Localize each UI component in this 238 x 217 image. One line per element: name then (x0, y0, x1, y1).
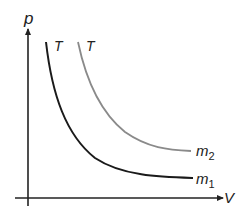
curve-m2-label: m2 (196, 142, 215, 162)
y-axis-label: p (23, 9, 33, 28)
curve-m1-label: m1 (196, 170, 215, 190)
isotherm-m2-curve (78, 42, 191, 151)
curve-m2-temperature-label: T (86, 38, 96, 54)
isotherm-m1-curve (46, 42, 193, 178)
curve-m1-temperature-label: T (54, 38, 64, 54)
x-axis-label: V (224, 189, 236, 206)
pv-diagram: p V T T m2 m1 (0, 0, 238, 217)
